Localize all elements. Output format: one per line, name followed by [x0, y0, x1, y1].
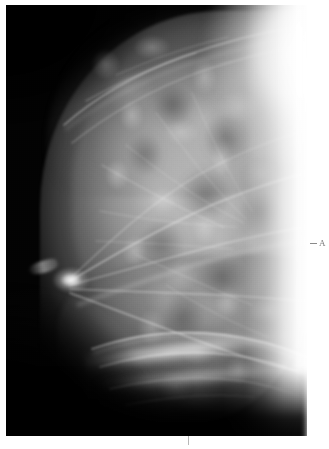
annotation-tick-icon: [310, 243, 317, 244]
mammogram-image: [6, 5, 307, 436]
annotation-marker-label: A: [319, 239, 326, 248]
annotation-marker-a: A: [310, 239, 326, 248]
film-grain-overlay: [6, 5, 307, 436]
page-canvas: A: [0, 0, 329, 449]
annotation-bottom-tick-icon: [188, 436, 189, 445]
